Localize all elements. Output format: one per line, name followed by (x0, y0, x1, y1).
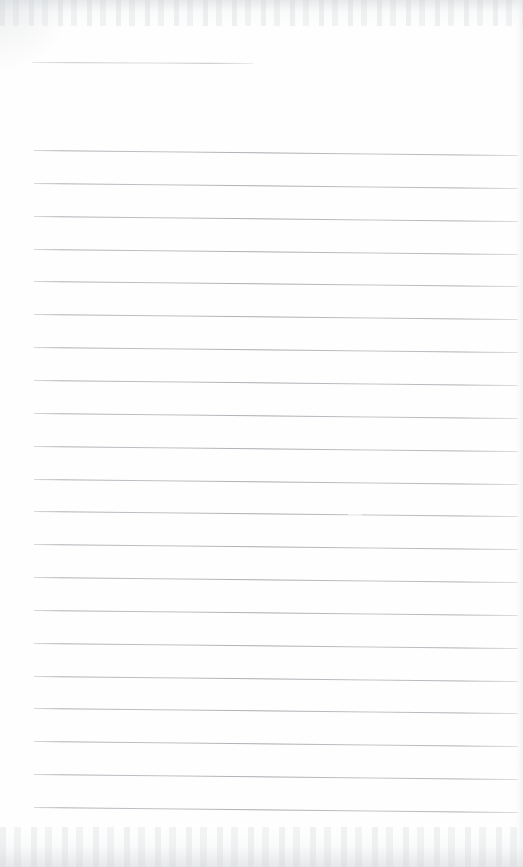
scan-noise-band-bottom (0, 827, 523, 867)
ruled-line (34, 708, 518, 714)
header-rule (32, 62, 253, 64)
ruled-line (34, 643, 518, 649)
ruled-line (34, 281, 518, 287)
paper-edge-right (513, 0, 523, 867)
scan-noise-band-top (0, 0, 523, 26)
scanned-notebook-page (0, 0, 523, 867)
ruled-line (34, 183, 518, 189)
ruled-line (34, 446, 518, 452)
ruled-line-gap (348, 515, 362, 516)
ruled-line (34, 544, 518, 550)
ruled-line (34, 741, 518, 747)
ruled-line (34, 150, 518, 156)
ruled-line (34, 347, 518, 353)
corner-shade-top-left (0, 0, 70, 70)
ruled-line (34, 314, 518, 320)
ruled-line (34, 249, 518, 255)
ruled-line (34, 380, 518, 386)
ruled-line (34, 807, 518, 813)
ruled-line (34, 413, 518, 419)
ruled-line (34, 511, 518, 517)
ruled-line (34, 676, 518, 682)
ruled-line (34, 610, 518, 616)
ruled-line (34, 216, 518, 222)
ruled-line (34, 479, 518, 485)
ruled-line (34, 577, 518, 583)
ruled-line (34, 774, 518, 780)
